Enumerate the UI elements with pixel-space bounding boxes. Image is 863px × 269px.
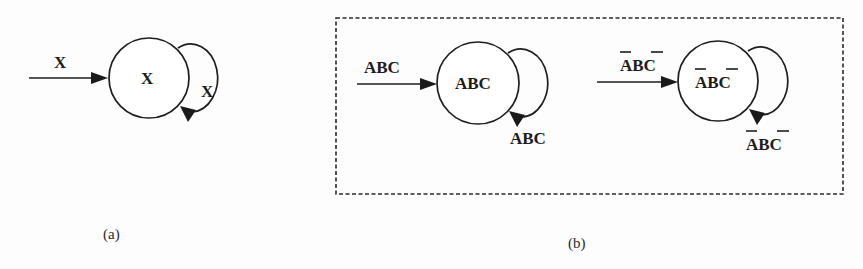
caption-b: (b)	[568, 235, 586, 252]
input-label-a: X	[54, 53, 67, 72]
caption-a: (a)	[103, 226, 120, 243]
arrowhead-icon	[91, 72, 108, 84]
input-label-b1: ABC	[364, 58, 400, 77]
self-loop-label-a: X	[201, 82, 214, 101]
dashed-group-box	[336, 18, 843, 194]
self-loop-label-b2: ABC	[746, 135, 782, 154]
arrowhead-icon	[420, 78, 437, 90]
panel-b: ABC ABC ABC ABC ABC ABC	[336, 18, 843, 252]
self-loop-label-b1: ABC	[510, 129, 546, 148]
state-2: ABC ABC ABC	[597, 41, 789, 154]
arrowhead-icon	[749, 109, 765, 125]
arrowhead-icon	[509, 111, 525, 127]
state-label-b1: ABC	[455, 74, 491, 93]
state-diagram-figure: X X X (a) ABC ABC ABC	[0, 0, 863, 269]
panel-a: X X X (a)	[29, 38, 218, 243]
input-label-b2: ABC	[620, 56, 656, 75]
state-1: ABC ABC ABC	[357, 42, 548, 148]
arrowhead-icon	[180, 106, 196, 122]
state-label-a: X	[141, 69, 154, 88]
arrowhead-icon	[661, 76, 678, 88]
state-label-b2: ABC	[695, 73, 731, 92]
